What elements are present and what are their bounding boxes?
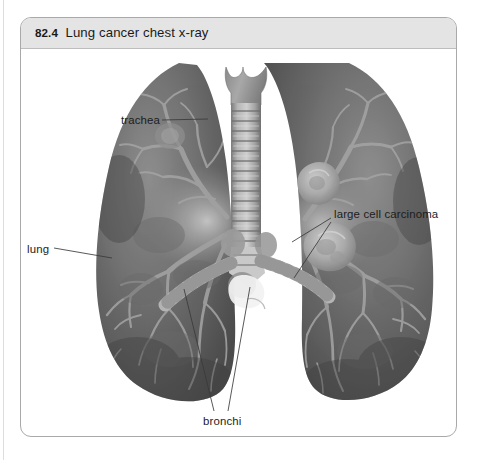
figure-title: Lung cancer chest x-ray (66, 25, 209, 40)
right-lung-field (263, 63, 445, 411)
scan-edge-artifact (3, 0, 4, 460)
annotation-label-lung: lung (27, 243, 49, 255)
annotation-label-large-cell-carcinoma: large cell carcinoma (334, 208, 438, 220)
figure-number: 82.4 (35, 26, 58, 39)
annotation-label-bronchi: bronchi (203, 415, 241, 427)
trachea-structure (225, 67, 267, 255)
radiograph-illustration (21, 49, 456, 436)
annotation-label-trachea: trachea (121, 114, 160, 126)
figure-caption: 82.4 Lung cancer chest x-ray (35, 25, 209, 40)
tumor-mass-upper (297, 162, 340, 205)
figure-frame: 82.4 Lung cancer chest x-ray (20, 17, 457, 437)
